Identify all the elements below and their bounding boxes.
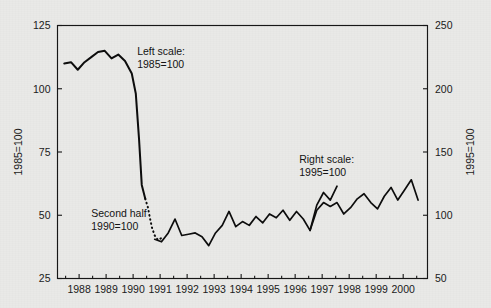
chart-figure: 1988198919901991199219931994199519961997…	[0, 0, 491, 308]
y-left-tick-label-75: 75	[39, 146, 51, 158]
x-tick-label-1991: 1991	[148, 283, 172, 295]
right-scale-annotation-line2: 1995=100	[299, 166, 346, 178]
right-scale-series	[310, 180, 418, 231]
x-tick-label-1997: 1997	[310, 283, 334, 295]
x-tick-label-1998: 1998	[337, 283, 361, 295]
x-tick-label-1992: 1992	[175, 283, 199, 295]
left-scale-series	[64, 51, 145, 199]
y-right-tick-label-250: 250	[435, 19, 453, 31]
plot-frame	[58, 26, 428, 279]
axis-titles-group: 1985=1001995=100	[12, 128, 476, 175]
x-tick-label-1993: 1993	[202, 283, 226, 295]
second-half-annotation-line1: Second half	[91, 207, 147, 219]
y-left-tick-label-100: 100	[33, 83, 51, 95]
y-right-tick-label-200: 200	[435, 83, 453, 95]
right-scale-annotation-line1: Right scale:	[299, 153, 354, 165]
x-tick-label-1988: 1988	[67, 283, 91, 295]
x-tick-label-1990: 1990	[121, 283, 145, 295]
x-axis-ticks: 1988198919901991199219931994199519961997…	[66, 274, 417, 295]
plot-border	[58, 26, 428, 279]
y-left-tick-label-25: 25	[39, 272, 51, 284]
y-left-tick-label-125: 125	[33, 19, 51, 31]
x-tick-label-1989: 1989	[94, 283, 118, 295]
y-axis-left-title: 1985=100	[12, 128, 24, 175]
splice-series-dotted	[145, 199, 161, 240]
x-tick-label-1995: 1995	[256, 283, 280, 295]
y-right-tick-label-50: 50	[435, 272, 447, 284]
left-scale-annotation-line2: 1985=100	[137, 58, 184, 70]
y-left-tick-label-50: 50	[39, 209, 51, 221]
second-half-annotation-line2: 1990=100	[91, 220, 138, 232]
y-right-tick-label-100: 100	[435, 209, 453, 221]
second-half-series	[155, 186, 337, 245]
left-scale-annotation-line1: Left scale:	[137, 45, 185, 57]
index-line-chart: 1988198919901991199219931994199519961997…	[0, 0, 491, 308]
x-tick-label-1996: 1996	[283, 283, 307, 295]
x-tick-label-1999: 1999	[365, 283, 389, 295]
y-right-tick-label-150: 150	[435, 146, 453, 158]
x-tick-label-1994: 1994	[229, 283, 253, 295]
x-tick-label-2000: 2000	[392, 283, 416, 295]
y-axis-right-title: 1995=100	[464, 128, 476, 175]
